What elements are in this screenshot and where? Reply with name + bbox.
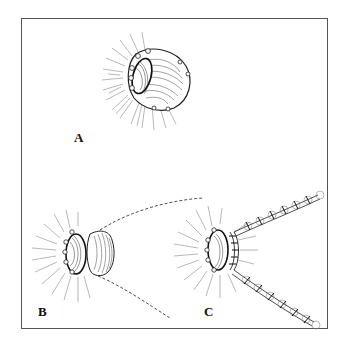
panel-b-drawing <box>32 198 204 318</box>
panel-c-drawing <box>174 191 324 329</box>
panel-label-a: A <box>74 131 83 144</box>
illustration <box>0 0 343 341</box>
panel-label-c: C <box>204 305 213 318</box>
panel-label-b: B <box>38 305 47 318</box>
panel-a-drawing <box>102 32 190 130</box>
